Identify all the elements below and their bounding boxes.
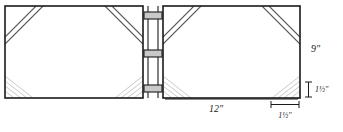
technical-drawing-figure: 9" 12" 1½" 1½": [0, 0, 343, 132]
hinge-tab-middle: [144, 50, 162, 57]
corner-height-dimension-label: 1½": [315, 85, 329, 94]
hinge-assembly: [144, 6, 162, 98]
hinge-tab-bottom: [144, 85, 162, 92]
height-dimension-label: 9": [311, 43, 321, 54]
height-dimension-group: 9": [311, 43, 321, 54]
right-panel-group: [163, 6, 300, 98]
corner-width-dimension-label: 1½": [278, 111, 292, 120]
left-panel-group: [5, 6, 143, 98]
right-panel-body: [163, 6, 300, 98]
left-panel-body: [5, 6, 143, 98]
corner-width-dimension-group: 1½": [271, 101, 299, 120]
corner-height-dimension-group: 1½": [305, 82, 329, 97]
hinge-tab-top: [144, 12, 162, 19]
width-dimension-label: 12": [209, 103, 224, 114]
figure-canvas: 9" 12" 1½" 1½": [0, 0, 343, 132]
